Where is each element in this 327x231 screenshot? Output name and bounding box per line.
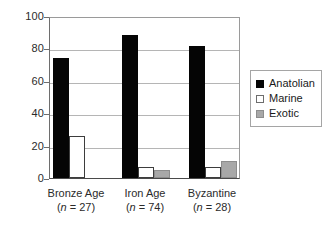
black-square-icon: [256, 80, 264, 88]
bar-group: [53, 18, 101, 178]
bar-group: [189, 18, 237, 178]
legend-item-label: Marine: [269, 93, 303, 104]
y-axis-tick-mark: [44, 179, 49, 180]
legend: AnatolianMarineExotic: [250, 70, 322, 127]
bar-marine-bronze-age: [69, 136, 85, 178]
bar-marine-byzantine: [205, 167, 221, 178]
gray-square-icon: [256, 110, 264, 118]
bar-anatolian-byzantine: [189, 46, 205, 178]
legend-item-label: Exotic: [269, 108, 299, 119]
y-axis-tick-label: 0: [4, 173, 44, 184]
legend-item-marine: Marine: [256, 91, 315, 106]
bar-marine-iron-age: [138, 167, 154, 178]
x-axis-sample-size: (n = 28): [162, 200, 262, 214]
y-axis-tick-label: 20: [4, 141, 44, 152]
legend-item-label: Anatolian: [269, 78, 315, 89]
legend-item-exotic: Exotic: [256, 106, 315, 121]
bar-anatolian-bronze-age: [53, 58, 69, 178]
y-axis-tick-label: 60: [4, 76, 44, 87]
white-square-icon: [256, 95, 264, 103]
x-axis-group-label: Byzantine(n = 28): [162, 186, 262, 214]
y-axis-tick-label: 40: [4, 108, 44, 119]
bar-exotic-byzantine: [221, 161, 237, 178]
plot-area: [49, 17, 240, 179]
y-axis-tick-label: 80: [4, 43, 44, 54]
y-axis-tick-label: 100: [4, 11, 44, 22]
bar-chart: 100806040200 Bronze Age(n = 27)Iron Age(…: [0, 0, 327, 231]
legend-item-anatolian: Anatolian: [256, 76, 315, 91]
bar-exotic-iron-age: [154, 170, 170, 178]
x-axis-category-name: Byzantine: [162, 186, 262, 200]
bar-anatolian-iron-age: [122, 35, 138, 178]
bar-group: [122, 18, 170, 178]
